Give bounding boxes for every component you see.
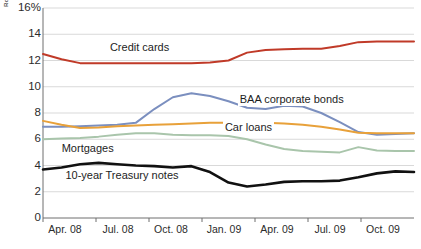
series-paths xyxy=(43,41,414,186)
x-tick-label: Apr. 08 xyxy=(48,224,81,235)
x-tick-label: Oct. 09 xyxy=(366,224,400,235)
line-chart xyxy=(0,0,421,249)
series-line xyxy=(43,41,414,63)
gridlines xyxy=(43,8,414,192)
x-tick-label: Jul. 09 xyxy=(315,224,346,235)
series-label: BAA corporate bonds xyxy=(238,93,346,106)
series-label: 10-year Treasury notes xyxy=(63,169,180,182)
x-tick-marks xyxy=(43,218,361,222)
series-label: Car loans xyxy=(223,121,274,134)
series-label: Mortgages xyxy=(60,142,116,155)
x-tick-label: Apr. 09 xyxy=(260,224,293,235)
x-axis: Apr. 08Jul. 08Oct. 08Jan. 09Apr. 09Jul. … xyxy=(0,224,421,240)
x-tick-label: Jul. 08 xyxy=(103,224,134,235)
x-tick-label: Oct. 08 xyxy=(154,224,188,235)
series-label: Credit cards xyxy=(108,41,171,54)
x-tick-label: Jan. 09 xyxy=(207,224,241,235)
figure: Robert Hall/The Federal Reserve Bank of … xyxy=(0,0,421,249)
